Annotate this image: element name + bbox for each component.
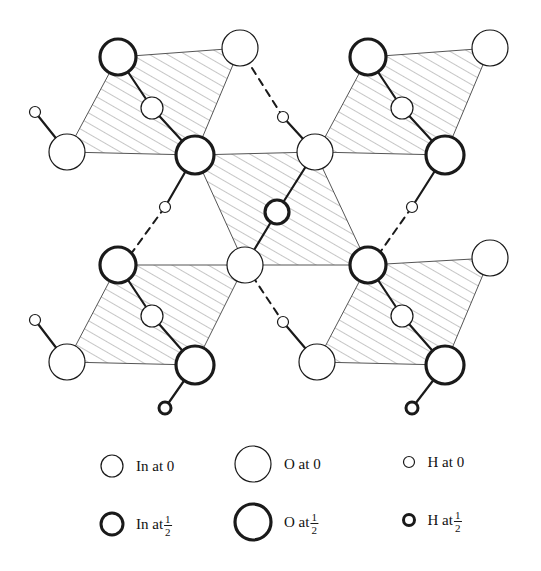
bond-dashed [128,207,165,258]
legend-item-h-at-0: H at 0 [404,454,465,470]
legend-item-h-at-half: H at 12 [404,509,462,534]
atom-o-at-half [100,247,136,283]
atom-o-at-half [176,346,214,384]
atom-h-at-half [406,402,418,414]
legend-label-h-at-0: H at 0 [428,454,465,470]
bond-dashed [376,207,412,258]
atom-o-at-half [426,136,464,174]
legend-item-o-at-0: O at 0 [235,446,321,482]
atom-o-at-half [100,39,136,75]
legend-fraction-numerator-in-at-half: 1 [165,513,171,525]
legend-symbol-h-at-0 [404,457,415,468]
atom-in-at-zero [391,305,413,327]
atom-h-at-half [159,402,171,414]
legend-label-in-at-half: In at [136,516,164,532]
legend-item-o-at-half: O at 12 [235,504,318,540]
legend-fraction-denominator-o-at-half: 2 [311,524,317,536]
legend: In at 0In at 12O at 0O at 12H at 0H at 1… [101,446,464,540]
legend-symbol-in-at-half [101,513,123,535]
legend-label-h-at-half: H at [428,512,454,528]
legend-label-o-at-half: O at [284,514,310,530]
atom-h-at-zero [407,202,418,213]
legend-symbol-o-at-0 [235,446,271,482]
legend-symbol-h-at-half [404,515,415,526]
atom-h-at-zero [30,315,41,326]
atom-o-at-zero [49,344,85,380]
atom-o-at-zero [297,134,333,170]
atom-o-at-half [426,346,464,384]
atom-h-at-zero [278,112,289,123]
legend-label-in-at-0: In at 0 [136,458,174,474]
legend-fraction-numerator-h-at-half: 1 [455,509,461,521]
atom-o-at-half [350,247,386,283]
atom-o-at-zero [472,240,508,276]
legend-fraction-denominator-in-at-half: 2 [165,526,171,538]
bond-dashed [252,68,283,117]
atom-o-at-zero [472,30,508,66]
atom-h-at-zero [160,202,171,213]
atom-in-at-zero [141,97,163,119]
atom-o-at-zero [49,134,85,170]
legend-symbol-in-at-0 [101,455,123,477]
atom-in-at-zero [391,97,413,119]
legend-item-in-at-0: In at 0 [101,455,174,477]
crystal-structure-figure: In at 0In at 12O at 0O at 12H at 0H at 1… [0,0,541,571]
structure-canvas: In at 0In at 12O at 0O at 12H at 0H at 1… [0,0,541,571]
legend-symbol-o-at-half [235,504,271,540]
atom-in-at-half [265,200,289,224]
legend-item-in-at-half: In at 12 [101,513,172,538]
legend-fraction-numerator-o-at-half: 1 [311,511,317,523]
atom-in-at-zero [141,305,163,327]
atom-o-at-half [350,39,386,75]
atom-h-at-zero [278,317,289,328]
atom-h-at-zero [30,107,41,118]
atom-o-at-half [176,136,214,174]
atom-o-at-zero [299,344,335,380]
legend-label-o-at-0: O at 0 [284,456,321,472]
atom-o-at-zero [222,30,258,66]
atom-o-at-zero [227,247,263,283]
legend-fraction-denominator-h-at-half: 2 [455,522,461,534]
